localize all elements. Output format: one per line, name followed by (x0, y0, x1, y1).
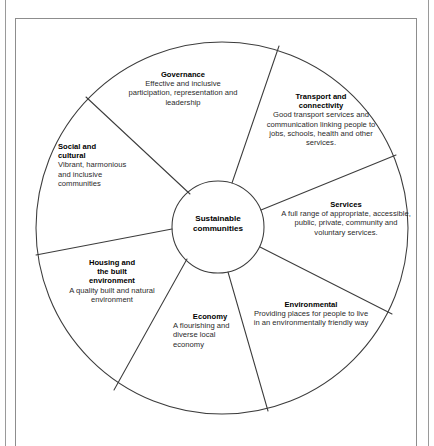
segment-description-economy: A flourishing and diverse local economy (173, 321, 247, 349)
segment-title-housing-line3: environment (52, 276, 172, 285)
segment-title-transport-line1: Transport and (258, 92, 384, 101)
segment-label-transport: Transport and connectivity Good transpor… (258, 92, 384, 147)
segment-label-governance: Governance Effective and inclusive parti… (124, 70, 242, 107)
segment-label-economy: Economy A flourishing and diverse local … (173, 312, 247, 349)
segment-title-environmental: Environmental (252, 300, 370, 309)
segment-description-services: A full range of appropriate, accessible,… (278, 209, 414, 237)
segment-title-social-line2: cultural (58, 151, 140, 160)
hub-label: Sustainable communities (172, 214, 264, 234)
sustainable-communities-wheel: Governance Effective and inclusive parti… (0, 0, 434, 446)
hub-label-line1: Sustainable (195, 214, 240, 223)
segment-label-services: Services A full range of appropriate, ac… (278, 200, 414, 237)
segment-title-services: Services (278, 200, 414, 209)
segment-description-governance: Effective and inclusive participation, r… (124, 79, 242, 107)
segment-label-environmental: Environmental Providing places for peopl… (252, 300, 370, 328)
spoke-housing-social (36, 229, 172, 255)
segment-label-housing: Housing and the built environment A qual… (52, 258, 172, 304)
segment-description-transport: Good transport services and communicatio… (258, 110, 384, 147)
segment-title-housing-line1: Housing and (52, 258, 172, 267)
segment-title-transport-line2: connectivity (258, 101, 384, 110)
segment-description-housing: A quality built and natural environment (52, 286, 172, 304)
segment-title-social-line1: Social and (58, 142, 140, 151)
segment-title-governance: Governance (124, 70, 242, 79)
hub-label-line2: communities (193, 224, 243, 233)
segment-description-environmental: Providing places for people to live in a… (252, 309, 370, 327)
segment-label-social: Social and cultural Vibrant, harmonious … (58, 142, 140, 188)
segment-description-social: Vibrant, harmonious and inclusive commun… (58, 160, 140, 188)
segment-title-housing-line2: the built (52, 267, 172, 276)
segment-title-economy: Economy (173, 312, 247, 321)
